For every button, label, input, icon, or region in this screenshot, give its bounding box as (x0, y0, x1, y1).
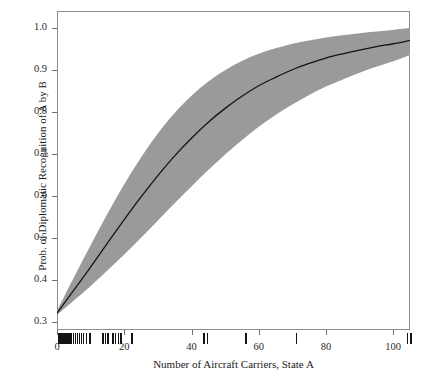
x-tick-mark (124, 330, 125, 335)
x-axis: 020406080100 (0, 330, 422, 381)
x-tick-label: 0 (37, 341, 77, 352)
x-tick-label: 20 (104, 341, 144, 352)
x-axis-title: Number of Aircraft Carriers, State A (57, 358, 410, 370)
x-tick-mark (57, 330, 58, 335)
x-tick-mark (326, 330, 327, 335)
figure-container: 0.30.40.50.60.70.80.91.0 Prob. of Diplom… (0, 0, 422, 381)
x-tick-mark (259, 330, 260, 335)
plot-canvas (57, 11, 410, 330)
confidence-band (57, 28, 410, 315)
x-tick-mark (393, 330, 394, 335)
x-tick-label: 40 (172, 341, 212, 352)
y-axis-title: Prob. of Diplomatic Recognition of A by … (36, 41, 48, 311)
x-tick-mark (192, 330, 193, 335)
x-tick-label: 100 (373, 341, 413, 352)
x-tick-label: 80 (306, 341, 346, 352)
x-tick-label: 60 (239, 341, 279, 352)
y-axis-title-wrapper: Prob. of Diplomatic Recognition of A by … (14, 10, 30, 330)
